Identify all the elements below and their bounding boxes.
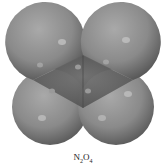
n2o4-space-filling-model bbox=[0, 0, 166, 150]
molecule-formula-caption: N2O4 bbox=[0, 152, 166, 164]
